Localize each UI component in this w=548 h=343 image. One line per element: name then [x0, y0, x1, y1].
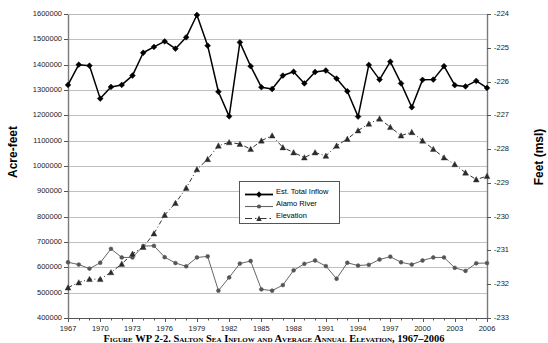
legend-label-elevation: Elevation — [274, 211, 307, 220]
legend-label-inflow: Est. Total Inflow — [274, 187, 328, 196]
legend-label-alamo: Alamo River — [274, 199, 317, 208]
chart-plot-area — [0, 0, 548, 343]
legend-item-elevation[interactable]: Elevation — [244, 209, 335, 221]
gridlines — [68, 15, 487, 294]
legend-item-alamo[interactable]: Alamo River — [244, 197, 335, 209]
legend-key-circle-icon — [244, 198, 274, 209]
figure-caption: Figure WP 2-2. Salton Sea Inflow and Ave… — [0, 333, 548, 343]
legend-key-diamond-icon — [244, 186, 274, 197]
figure-container: Acre-feet Feet (msl) 4000005000006000007… — [0, 0, 548, 343]
series-alamo-river — [66, 244, 489, 293]
tick-marks — [64, 15, 491, 323]
legend-key-triangle-icon — [244, 210, 274, 221]
chart-legend: Est. Total Inflow Alamo River Elevation — [239, 181, 340, 224]
legend-item-inflow[interactable]: Est. Total Inflow — [244, 185, 335, 197]
